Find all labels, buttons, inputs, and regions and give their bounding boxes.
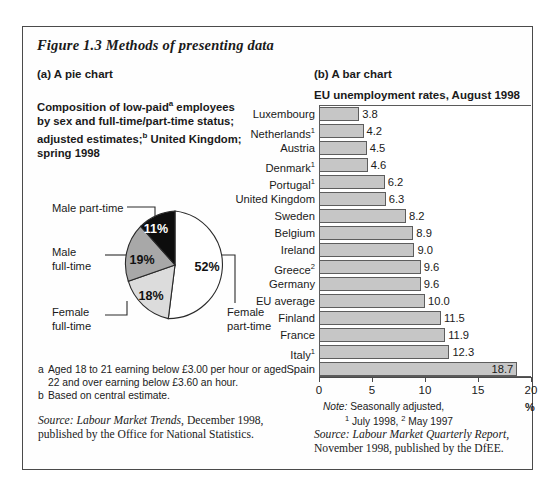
pie-value-male-full-time: 19% [129,253,154,267]
axis-tick [372,377,373,382]
pie-source: Source: Labour Market Trends, December 1… [38,414,288,442]
bar-row: United Kingdom6.3 [319,192,531,206]
footnote-row: aAged 18 to 21 earning below £3.00 per h… [38,363,293,389]
bar-rect [319,107,359,121]
pie-callout-female-full-time-line1: Female [52,306,89,318]
bar-row: Portugal16.2 [319,175,531,189]
bar-rect [319,192,386,206]
bar-category-label: Greece2 [274,260,315,277]
axis-tick-label: 15 [472,384,485,396]
axis-tick-label: 5 [369,384,375,396]
pie-source-prefix: Source: Labour Market Trends [38,414,181,427]
pie-title-line2: by sex and full-time/part-time status; [37,115,234,127]
bar-rect [319,362,517,376]
footnote-marker: a [38,363,48,389]
bar-row: Ireland9.0 [319,243,531,257]
bar-row: Italy112.3 [319,345,531,359]
bar-rect [319,226,413,240]
pie-title-line3: adjusted estimates; [37,132,142,144]
pie-callout-male-part-time: Male part-time [52,202,124,216]
axis-tick-label: 0 [316,384,322,396]
pie-value-female-part-time: 52% [194,260,219,274]
footnote-row: bBased on central estimate. [38,389,293,402]
bar-rect [319,175,385,189]
footnote-marker: b [38,389,48,402]
pie-title-line1b: employees [173,101,235,113]
figure-caption: Figure 1.3 Methods of presenting data [37,37,274,54]
bar-note-line2-a: July 1998, [349,416,401,427]
footnote-text: Aged 18 to 21 earning below £3.00 per ho… [48,363,293,389]
panel-b-label: (b) A bar chart [314,68,392,80]
bar-rect [319,158,368,172]
pie-footnotes: aAged 18 to 21 earning below £3.00 per h… [38,363,293,402]
bar-category-label: EU average [256,294,315,308]
pie-callout-female-part-time-line2: part-time [227,320,271,332]
bar-chart-title: EU unemployment rates, August 1998 [314,89,520,101]
bar-value-label: 10.0 [428,294,450,308]
figure-panel: Figure 1.3 Methods of presenting data (a… [22,26,533,470]
bar-category-label: Germany [269,277,315,291]
pie-callout-male-full-time: Male full-time [52,246,91,273]
pie-callout-female-full-time-line2: full-time [52,320,91,332]
bar-rect [319,141,367,155]
leader-female-full-time [105,301,127,315]
footnote-text: Based on central estimate. [48,389,293,402]
pie-value-female-full-time: 18% [138,289,163,303]
bar-category-label: United Kingdom [235,192,315,206]
bar-value-label: 9.0 [417,243,433,257]
bar-category-label: Finland [278,311,315,325]
axis-tick [478,377,479,382]
bar-category-footnote-marker: 1 [311,126,315,135]
bar-row: Spain18.7 [319,362,531,376]
panel-a-label: (a) A pie chart [37,68,113,80]
bar-category-label: Denmark1 [265,158,315,175]
bar-category-label: France [280,328,315,342]
bar-rect [319,124,364,138]
bar-value-label: 18.7 [491,362,513,376]
bar-value-label: 6.2 [388,175,404,189]
axis-tick [531,377,532,382]
bar-row: Germany9.6 [319,277,531,291]
pie-title-line1: Composition of low-paid [37,101,169,113]
bar-source-prefix: Source: Labour Market Quarterly Report [314,428,506,441]
bar-value-label: 11.5 [444,311,465,325]
axis-tick [319,377,320,382]
bar-row: Greece29.6 [319,260,531,274]
bar-value-label: 6.3 [389,192,405,206]
axis-tick [425,377,426,382]
pie-callout-male-full-time-line1: Male [52,246,76,258]
bar-category-footnote-marker: 2 [311,262,315,271]
bar-value-label: 11.9 [448,328,469,342]
bar-rect [319,277,421,291]
bar-category-footnote-marker: 1 [311,347,315,356]
bar-rect [319,345,449,359]
bar-rect [319,243,414,257]
bar-category-footnote-marker: 1 [311,160,315,169]
pie-callout-male-full-time-line2: full-time [52,260,91,272]
bar-value-label: 4.5 [370,141,386,155]
bar-category-label: Ireland [281,243,315,257]
bar-category-label: Luxembourg [253,107,315,121]
bar-category-label: Netherlands1 [251,124,316,141]
bar-note-text: Seasonally adjusted, [347,401,444,412]
bar-chart-note: Note: Seasonally adjusted, 1 July 1998, … [323,401,513,428]
bar-row: Finland11.5 [319,311,531,325]
axis-tick-label: 10 [419,384,432,396]
bar-note-prefix: Note: [323,401,347,412]
pie-value-male-part-time: 11% [144,222,168,236]
pie-title-line4: spring 1998 [37,147,100,159]
bar-row: Luxembourg3.8 [319,107,531,121]
bar-rect [319,260,421,274]
bar-category-label: Portugal1 [269,175,315,192]
bar-rect [319,209,406,223]
pie-chart-title: Composition of low-paida employees by se… [37,97,287,160]
bar-value-label: 9.6 [424,260,440,274]
bar-row: Austria4.5 [319,141,531,155]
bar-source: Source: Labour Market Quarterly Report, … [314,428,529,456]
bar-rect [319,328,445,342]
bar-row: Sweden8.2 [319,209,531,223]
bar-rect [319,311,441,325]
bar-row: Belgium8.9 [319,226,531,240]
bar-category-label: Italy1 [290,345,315,362]
bar-value-label: 9.6 [424,277,440,291]
